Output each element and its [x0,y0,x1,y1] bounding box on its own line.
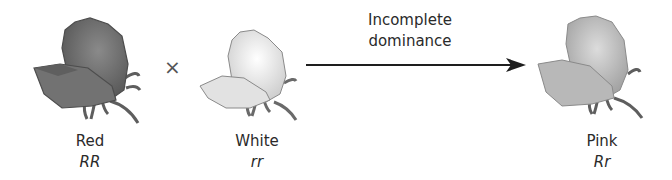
pink-phenotype: Pink [572,132,632,150]
red-rose-illustration [30,16,150,126]
pink-rose-illustration [532,12,650,120]
pink-offspring-label: Pink Rr [572,132,632,171]
arrow-icon [306,57,528,73]
arrow-label-line2: dominance [340,31,480,52]
white-parent-label: White rr [222,132,292,171]
arrow-label-line1: Incomplete [340,10,480,31]
white-rose-illustration [196,28,306,123]
white-phenotype: White [222,132,292,150]
red-phenotype: Red [60,132,120,150]
red-genotype: RR [60,153,120,171]
red-parent-label: Red RR [60,132,120,171]
cross-symbol: × [164,55,181,79]
white-genotype: rr [222,153,292,171]
pink-genotype: Rr [572,153,632,171]
arrow-label: Incomplete dominance [340,10,480,52]
